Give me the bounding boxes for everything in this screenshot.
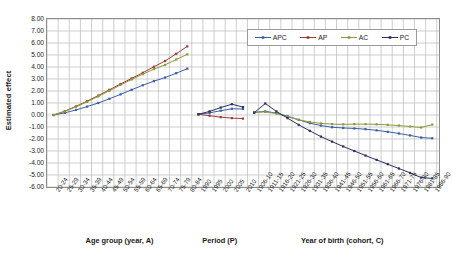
y-axis-tick-label: 8.00 xyxy=(31,15,44,22)
y-axis-tick-label: -6.00 xyxy=(29,183,44,190)
y-axis-tick-label: 2.00 xyxy=(31,87,44,94)
legend-line-icon xyxy=(300,33,316,42)
y-axis-tick-label: -3.00 xyxy=(29,147,44,154)
y-axis-tick-label: 1.00 xyxy=(31,99,44,106)
legend-label: APC xyxy=(273,34,287,41)
y-axis-tick-label: 5.00 xyxy=(31,51,44,58)
y-axis-tick-label: -5.00 xyxy=(29,171,44,178)
y-axis-tick-label: 6.00 xyxy=(31,39,44,46)
legend-item-pc[interactable]: PC xyxy=(382,33,409,42)
legend-item-ac[interactable]: AC xyxy=(341,33,368,42)
panel-title-period: Period (P) xyxy=(160,236,280,245)
legend-label: PC xyxy=(400,34,409,41)
y-axis-tick-label: -1.00 xyxy=(29,123,44,130)
y-axis-ticks: 8.007.006.005.004.003.002.001.000.00-1.0… xyxy=(16,0,44,200)
legend-line-icon xyxy=(341,33,357,42)
panel-title-cohort: Year of birth (cohort, C) xyxy=(282,236,402,245)
legend-label: AP xyxy=(318,34,327,41)
y-axis-tick-label: 0.00 xyxy=(31,111,44,118)
chart-legend[interactable]: APCAPACPC xyxy=(247,29,417,46)
y-axis-title: Estimated effect xyxy=(5,70,14,130)
y-axis-tick-label: -4.00 xyxy=(29,159,44,166)
legend-item-apc[interactable]: APC xyxy=(255,33,287,42)
y-axis-tick-label: 4.00 xyxy=(31,63,44,70)
y-axis-tick-label: -2.00 xyxy=(29,135,44,142)
chart-container: Estimated effect 8.007.006.005.004.003.0… xyxy=(0,0,452,259)
legend-line-icon xyxy=(255,33,271,42)
legend-item-ap[interactable]: AP xyxy=(300,33,327,42)
legend-line-icon xyxy=(382,33,398,42)
y-axis-tick-label: 3.00 xyxy=(31,75,44,82)
legend-label: AC xyxy=(359,34,368,41)
y-axis-tick-label: 7.00 xyxy=(31,27,44,34)
